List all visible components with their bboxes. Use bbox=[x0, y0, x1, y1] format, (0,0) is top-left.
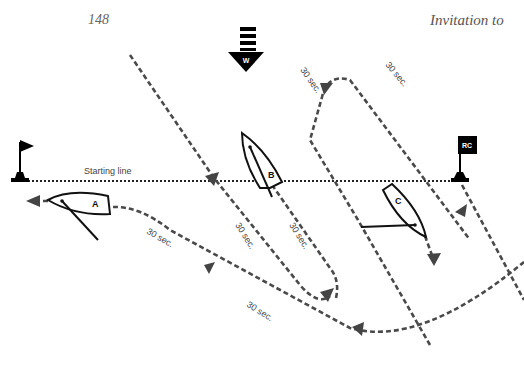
timing-label: 30 sec. bbox=[383, 60, 409, 89]
boat-c-loop-path bbox=[310, 78, 470, 345]
boat-b-label: B bbox=[268, 170, 275, 180]
timing-label: 30 sec. bbox=[298, 65, 323, 95]
committee-boat-label: RC bbox=[462, 142, 472, 149]
boat-c-label: C bbox=[395, 196, 402, 206]
path-arrow-icon bbox=[427, 253, 441, 266]
path-arrow-icon bbox=[455, 204, 467, 217]
path-arrow-icon bbox=[205, 172, 219, 186]
boat-a-label: A bbox=[92, 199, 99, 209]
boat-b: B bbox=[242, 133, 282, 197]
timing-label: 30 sec. bbox=[287, 221, 311, 251]
wind-arrow-icon: W bbox=[228, 27, 264, 72]
path-arrow-icon bbox=[204, 262, 215, 274]
boat-a-path bbox=[113, 207, 524, 332]
starting-line-label: Starting line bbox=[84, 166, 132, 176]
boat-c-return-path bbox=[462, 185, 524, 300]
timing-label: 30 sec. bbox=[245, 299, 275, 323]
committee-boat-flag-icon: RC bbox=[451, 136, 477, 182]
wind-label: W bbox=[243, 57, 250, 64]
pin-end-flag-icon bbox=[11, 140, 34, 182]
path-arrow-icon bbox=[26, 195, 40, 207]
boat-a: A bbox=[48, 193, 110, 240]
timing-label: 30 sec. bbox=[145, 226, 175, 249]
boat-c: C bbox=[361, 184, 426, 237]
path-arrow-icon bbox=[352, 322, 364, 336]
starting-line-diagram: W Starting line RC A bbox=[0, 0, 524, 380]
